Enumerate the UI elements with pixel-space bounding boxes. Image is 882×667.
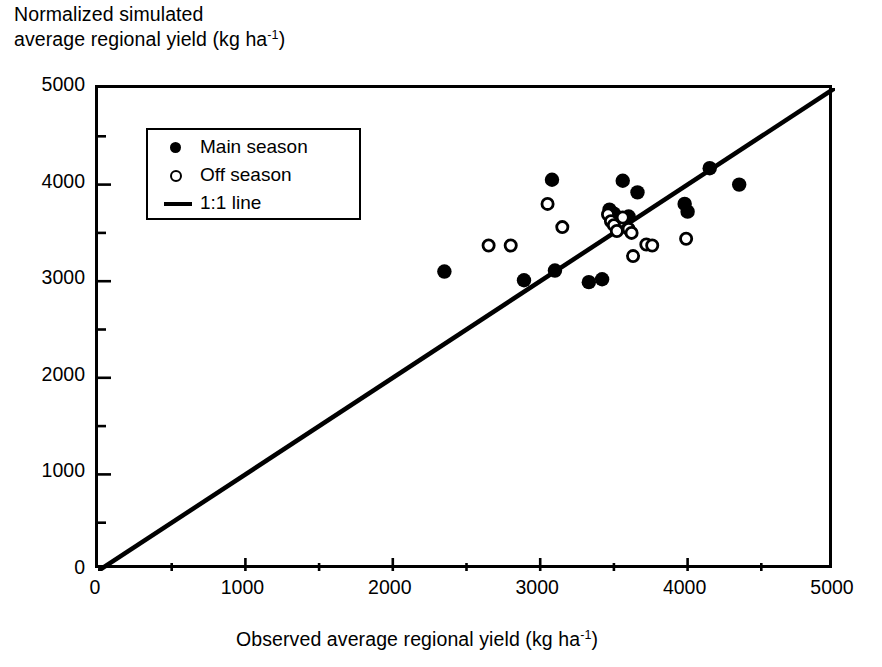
legend-item-one-to-one-line: 1:1 line [148,189,359,217]
y-tick-label: 3000 [5,266,85,289]
x-tick-label: 2000 [345,576,435,599]
y-axis-label-line2: average regional yield (kg ha-1) [14,28,285,50]
legend-label-one-to-one-line: 1:1 line [200,189,261,217]
x-axis-label-text: Observed average regional yield (kg ha [236,628,580,650]
legend-label-main-season: Main season [200,133,308,161]
x-tick-label: 5000 [787,576,877,599]
legend-item-main-season: Main season [148,133,359,161]
chart-legend: Main season Off season 1:1 line [146,128,361,220]
x-tick-label: 1000 [197,576,287,599]
x-tick-label: 0 [50,576,140,599]
x-axis-label-close: ) [592,628,599,650]
y-axis-label-line1: Normalized simulated [14,3,204,25]
open-circle-icon [162,161,196,189]
y-axis-label-line2-text: average regional yield (kg ha [14,28,267,50]
x-tick-label: 4000 [640,576,730,599]
y-tick-label: 1000 [5,459,85,482]
y-axis-label: Normalized simulatedaverage regional yie… [14,2,285,52]
y-tick-label: 4000 [5,170,85,193]
x-axis-label-exponent: -1 [580,628,591,642]
filled-circle-icon [162,133,196,161]
line-segment-icon [162,189,196,217]
data-points [437,161,746,289]
y-axis-label-line2-close: ) [279,28,286,50]
y-tick-label: 2000 [5,363,85,386]
legend-label-off-season: Off season [200,161,292,189]
x-tick-label: 3000 [492,576,582,599]
legend-item-off-season: Off season [148,161,359,189]
y-tick-label: 5000 [5,73,85,96]
x-axis-label: Observed average regional yield (kg ha-1… [236,628,598,651]
y-axis-label-exponent: -1 [267,28,278,42]
